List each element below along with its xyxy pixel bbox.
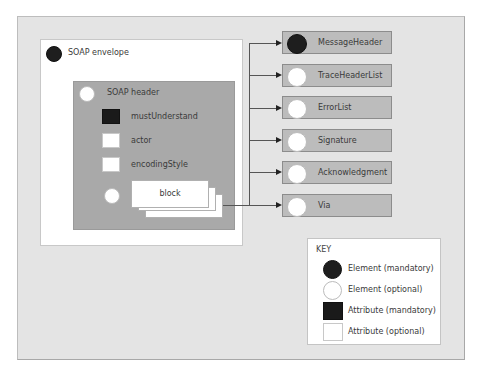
element-label: MessageHeader — [318, 38, 382, 48]
attribute-mandatory-icon — [102, 109, 120, 124]
connector-trunk — [249, 43, 250, 206]
legend-box: KEY Element (mandatory) Element (optiona… — [307, 238, 441, 345]
element-optional-icon — [287, 99, 307, 119]
connector-line — [249, 205, 276, 206]
element-box-errorlist: ErrorList — [282, 96, 392, 119]
block-card: block — [131, 180, 209, 208]
element-box-via: Via — [282, 194, 392, 217]
element-box-messageheader: MessageHeader — [282, 31, 392, 54]
connector-line — [249, 172, 276, 173]
connector-line — [249, 43, 276, 44]
element-optional-icon — [287, 197, 307, 217]
attribute-optional-icon — [102, 157, 120, 172]
legend-label: Attribute (mandatory) — [348, 306, 436, 316]
connector-line — [249, 140, 276, 141]
attribute-label: actor — [131, 136, 152, 146]
element-optional-icon — [104, 188, 120, 204]
element-optional-icon — [287, 164, 307, 184]
element-mandatory-icon — [287, 34, 307, 54]
legend-label: Element (optional) — [348, 285, 422, 295]
block-label: block — [132, 189, 208, 199]
element-optional-icon — [287, 132, 307, 152]
legend-label: Attribute (optional) — [348, 327, 425, 337]
attribute-optional-icon — [323, 323, 343, 341]
soap-header-label: SOAP header — [107, 88, 159, 98]
element-label: Via — [318, 201, 330, 211]
element-label: Signature — [318, 136, 357, 146]
element-box-acknowledgment: Acknowledgment — [282, 161, 392, 184]
soap-envelope-label: SOAP envelope — [68, 48, 129, 58]
element-mandatory-icon — [46, 46, 62, 62]
legend-title: KEY — [316, 245, 331, 254]
attribute-optional-icon — [102, 133, 120, 148]
connector-from-block — [223, 205, 250, 206]
element-label: ErrorList — [318, 103, 351, 113]
attribute-label: encodingStyle — [131, 160, 188, 170]
element-label: Acknowledgment — [318, 168, 387, 178]
legend-item: Attribute (mandatory) — [323, 302, 438, 321]
element-optional-icon — [79, 86, 95, 102]
connector-line — [249, 108, 276, 109]
legend-item: Element (mandatory) — [323, 260, 438, 279]
element-box-signature: Signature — [282, 129, 392, 152]
legend-label: Element (mandatory) — [348, 264, 434, 274]
element-optional-icon — [323, 281, 342, 300]
element-box-traceheaderlist: TraceHeaderList — [282, 64, 392, 87]
element-mandatory-icon — [323, 260, 342, 279]
legend-item: Element (optional) — [323, 281, 438, 300]
attribute-label: mustUnderstand — [131, 112, 198, 122]
attribute-mandatory-icon — [323, 302, 343, 320]
element-optional-icon — [287, 67, 307, 87]
connector-line — [249, 75, 276, 76]
element-label: TraceHeaderList — [318, 71, 382, 81]
legend-item: Attribute (optional) — [323, 323, 438, 342]
